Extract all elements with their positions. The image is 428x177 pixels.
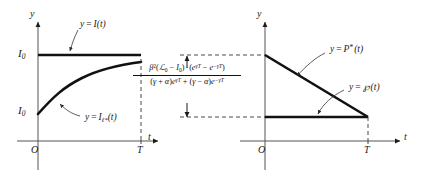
formula-num-L-subscript: 0 [165,67,168,73]
left-curve-label-I-lhs: y [80,19,84,29]
left-curve-label-I-eq: = [86,19,91,29]
right-curve-label-Pstar: y=P*(t) [330,43,363,54]
formula-num-close-paren: ) [182,63,185,72]
left-origin-label: O [31,144,38,155]
formula-den-gamma-2: γ [192,77,195,86]
right-curve-label-P: y=℘(t) [349,81,380,92]
formula-den-plus-2: + [183,77,188,86]
right-curve-label-P-arg: (t) [371,82,380,92]
span-formula: β2(ℒ0−I0)·(eγT−e−γT) (γ+α)eγT+(γ−α)e−γT [133,63,241,87]
right-curve-label-Pstar-arg: (t) [354,44,363,54]
left-y-tick-label-top: I0 [18,47,25,61]
formula-num-close-paren-2: ) [222,63,225,72]
formula-den-plus: + [158,77,163,86]
left-curve-label-I: y=I(t) [80,19,106,29]
right-curve-label-Pstar-lhs: y [330,44,334,54]
figure-root: y t O T I0 I0 y=I(t) y=Iℓ*(t) y t O T y=… [0,0,428,177]
formula-denominator: (γ+α)eγT+(γ−α)e−γT [133,75,241,88]
formula-den-e-2-exponent: −γT [215,77,224,83]
right-leader-linear [297,53,325,76]
right-x-axis-label: t [404,131,407,142]
right-curve-label-P-lhs: y [349,82,353,92]
left-y-tick-bottom-subscript: 0 [22,109,26,118]
left-x-axis-label: t [148,131,151,142]
right-curve-label-Pstar-star: * [349,43,353,52]
formula-num-minus-2: − [203,63,208,72]
right-curve-label-P-fn: ℘ [363,82,370,92]
left-curve-label-Ip-eq: = [91,112,96,122]
formula-num-e-2-exponent: −γT [213,63,222,69]
left-curve-label-Ip-lhs: y [85,112,89,122]
right-curve-label-P-eq: = [355,82,360,92]
left-series-curve [38,62,141,114]
left-y-tick-label-bottom: I0 [18,104,25,118]
left-curve-label-Ip: y=Iℓ*(t) [85,112,117,123]
right-curve-label-Pstar-eq: = [336,44,341,54]
left-y-tick-top-subscript: 0 [22,52,26,61]
left-curve-label-I-arg: (t) [97,19,106,29]
right-x-tick-label-T: T [364,144,370,155]
left-y-axis-label: y [30,8,34,19]
left-curve-label-Ip-arg: (t) [108,112,117,122]
left-leader-curve [60,104,80,116]
formula-den-minus: − [197,77,202,86]
formula-numerator: β2(ℒ0−I0)·(eγT−e−γT) [133,63,241,75]
formula-den-gamma: γ [153,77,156,86]
right-y-axis-label: y [257,8,261,19]
formula-den-e-1-exponent: γT [176,77,181,83]
formula-num-dot: · [185,63,188,72]
left-leader-constant [70,30,78,51]
left-x-tick-label-T: T [137,144,143,155]
formula-num-e-1-exponent: γT [196,63,201,69]
right-origin-label: O [258,144,265,155]
formula-num-minus-1: − [170,63,175,72]
